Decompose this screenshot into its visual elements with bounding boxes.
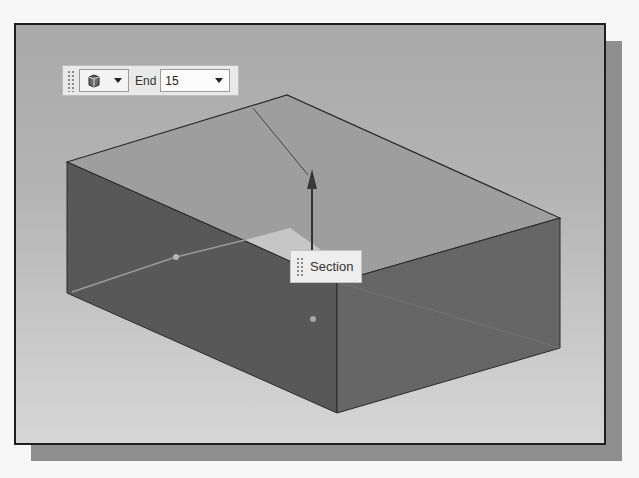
end-label: End xyxy=(135,74,156,88)
section-manipulator-label[interactable]: Section xyxy=(290,250,362,283)
chevron-down-icon[interactable] xyxy=(215,78,223,83)
feature-toolbar: End 15 xyxy=(62,65,239,96)
chevron-down-icon[interactable] xyxy=(114,78,122,83)
end-value-dropdown[interactable]: 15 xyxy=(160,69,230,92)
extrude-body-icon xyxy=(86,73,102,89)
end-value-input[interactable]: 15 xyxy=(165,74,178,88)
extrude-type-dropdown[interactable] xyxy=(79,69,129,92)
drag-grip-icon[interactable] xyxy=(296,257,304,277)
3d-viewport[interactable]: End 15 Section xyxy=(14,23,606,445)
section-label: Section xyxy=(310,259,353,274)
vertex-point xyxy=(310,316,316,322)
drag-grip-icon[interactable] xyxy=(67,70,75,92)
vertex-point xyxy=(173,254,179,260)
